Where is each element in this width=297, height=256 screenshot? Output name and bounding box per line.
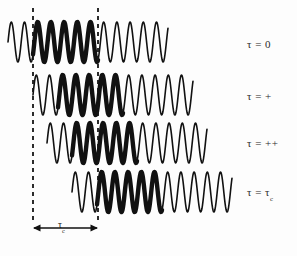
tau-c-arrowhead-left: [33, 225, 41, 232]
tau-c-bracket-label: τc: [58, 219, 65, 232]
waveform-thin-right-0: [98, 22, 168, 62]
waveform-bold-segment-2: [72, 123, 137, 163]
waveform-row-1: [33, 75, 193, 115]
waveform-row-2: [47, 123, 207, 163]
coherence-time-figure: τ = 0 τ = + τ = ++ τ = τc τc: [0, 0, 297, 256]
row-label-tau-c-subscript: c: [270, 195, 274, 203]
row-label-tau-plusplus: τ = ++: [247, 137, 279, 149]
waveform-thin-left-1: [33, 75, 58, 115]
waveform-bold-segment-3: [97, 172, 162, 212]
tau-c-arrow: [33, 225, 98, 232]
row-label-tau-plus: τ = +: [247, 90, 272, 102]
waveform-row-0: [8, 22, 168, 62]
row-label-tau-c: τ = τc: [247, 186, 274, 201]
waveform-thin-right-1: [123, 75, 193, 115]
waveform-group: [8, 22, 232, 212]
waveform-row-3: [72, 172, 232, 212]
waveform-thin-right-2: [137, 123, 207, 163]
tau-c-bracket-subscript: c: [62, 227, 65, 234]
waveform-bold-segment-0: [33, 22, 98, 62]
row-label-tau-c-prefix: τ = τ: [247, 186, 270, 198]
waveform-thin-left-2: [47, 123, 72, 163]
waveform-thin-right-3: [162, 172, 232, 212]
tau-c-arrowhead-right: [91, 225, 99, 232]
waveform-bold-segment-1: [58, 75, 123, 115]
waveform-thin-left-0: [8, 22, 33, 62]
waveform-thin-left-3: [72, 172, 97, 212]
row-label-tau-0: τ = 0: [247, 38, 271, 50]
